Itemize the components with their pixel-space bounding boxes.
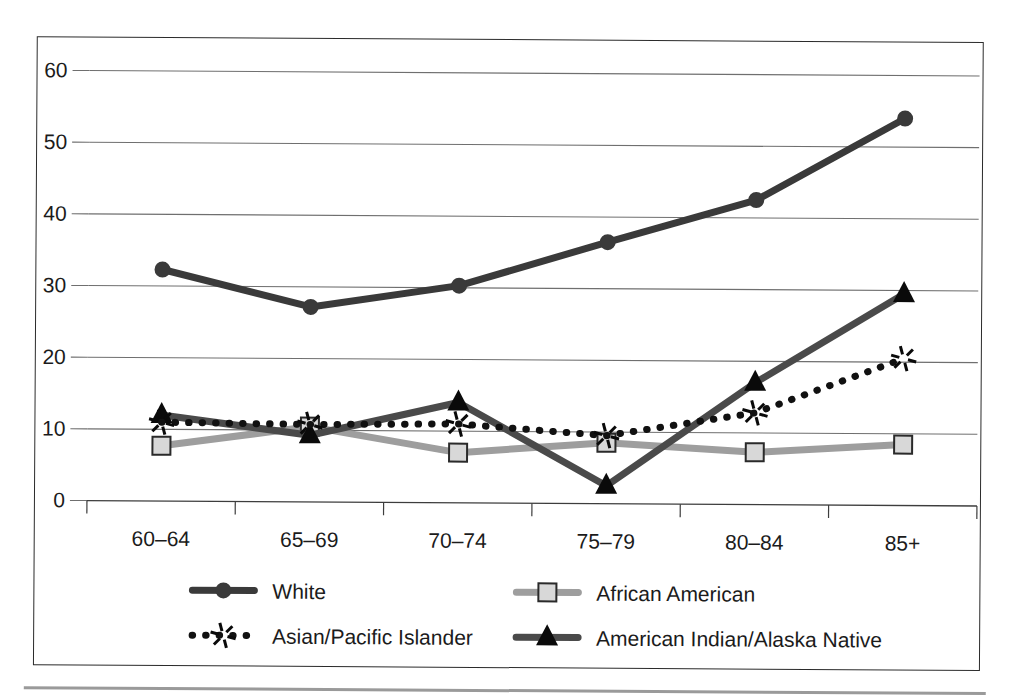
x-category-label-0: 60–64 <box>132 527 191 550</box>
y-axis: 0102030405060 <box>42 58 90 511</box>
y-tick-label-40: 40 <box>43 202 66 225</box>
chart-legend: WhiteAfrican AmericanAsian/Pacific Islan… <box>192 579 882 652</box>
series-circle-point-0-circle-marker <box>154 261 170 277</box>
legend-square-square-marker <box>538 583 556 601</box>
y-tick-label-60: 60 <box>44 58 67 81</box>
legend-label-0: White <box>272 580 326 603</box>
series-circle-point-1-circle-marker <box>303 299 319 315</box>
series-line-triangle <box>161 290 904 488</box>
legend-label-2: Asian/Pacific Islander <box>272 625 473 649</box>
x-axis <box>87 501 977 519</box>
y-tick-label-20: 20 <box>42 345 65 368</box>
y-tick-label-50: 50 <box>44 130 67 153</box>
series-square-point-2-square-marker <box>449 444 467 462</box>
gridline-20 <box>88 357 978 362</box>
series-square-point-4-square-marker <box>746 443 764 461</box>
legend-entry-african-american[interactable]: African American <box>516 581 755 605</box>
legend-label-3: American Indian/Alaska Native <box>596 627 882 652</box>
x-category-label-3: 75–79 <box>577 530 636 553</box>
y-tick-label-0: 0 <box>53 488 65 511</box>
y-tick-label-30: 30 <box>43 273 66 296</box>
legend-circle-circle-marker <box>215 582 231 598</box>
y-tick-label-10: 10 <box>42 417 65 440</box>
legend-entry-asian-pacific-islander[interactable]: Asian/Pacific Islander <box>192 623 473 650</box>
series-circle-point-5-circle-marker <box>897 110 913 126</box>
series-triangle-point-5-triangle-marker <box>893 281 915 302</box>
series-triangle-point-2-triangle-marker <box>447 389 469 410</box>
x-category-label-1: 65–69 <box>280 528 339 551</box>
gridline-50 <box>89 142 979 147</box>
x-category-label-4: 80–84 <box>725 530 784 553</box>
legend-entry-white[interactable]: White <box>192 579 326 603</box>
x-category-label-5: 85+ <box>885 531 921 554</box>
series-circle-point-2-circle-marker <box>451 278 467 294</box>
chart-page: 0102030405060 60–6465–6970–7475–7980–848… <box>0 0 1023 698</box>
gridline-40 <box>89 214 979 219</box>
gridline-60 <box>90 71 980 76</box>
series-american-indian-alaska-native <box>150 277 915 496</box>
series-circle-point-4-circle-marker <box>748 192 764 208</box>
line-chart: 0102030405060 60–6465–6970–7475–7980–848… <box>0 0 1023 698</box>
series-asterisk-point-5-asterisk-marker <box>891 346 916 371</box>
gridline-10 <box>87 429 977 434</box>
figure-skew-wrapper: 0102030405060 60–6465–6970–7475–7980–848… <box>0 0 1023 698</box>
x-category-label-2: 70–74 <box>428 529 487 552</box>
x-axis-category-labels: 60–6465–6970–7475–7980–8485+ <box>132 527 921 555</box>
series-circle-point-3-circle-marker <box>600 234 616 250</box>
legend-entry-american-indian-alaska-native[interactable]: American Indian/Alaska Native <box>516 624 882 651</box>
series-plot-area <box>149 106 918 496</box>
series-square-point-5-square-marker <box>894 436 912 454</box>
legend-label-1: African American <box>596 582 755 606</box>
series-line-asterisk <box>162 354 904 437</box>
series-square-point-0-square-marker <box>152 437 170 455</box>
